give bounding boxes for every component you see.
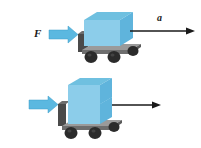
bottom-scene: F a 2 (0, 74, 201, 148)
top-scene: F a (0, 0, 201, 74)
acceleration-arrow-top-icon (130, 28, 195, 35)
single-mass-cart-panel: F a (0, 0, 201, 74)
force-label-top: F (34, 28, 41, 39)
top-scene-graphics (0, 0, 201, 74)
acceleration-arrow-bottom-icon (112, 102, 161, 109)
double-mass-cart-panel: F a 2 (0, 74, 201, 148)
bottom-scene-graphics (0, 74, 201, 148)
acceleration-label-top: a (157, 13, 162, 23)
cart-bottom-box-2 (68, 78, 112, 104)
force-arrow-top-icon (49, 26, 78, 43)
cart-top-box-1 (84, 12, 133, 46)
force-arrow-bottom-icon (29, 96, 58, 113)
